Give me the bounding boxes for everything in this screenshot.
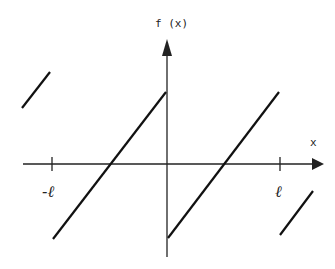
segment-main-left [53, 92, 166, 239]
tick-label-pos-l: ℓ [275, 182, 282, 201]
sawtooth-diagram: f (x) x -ℓ ℓ [0, 0, 335, 269]
x-axis-label: x [310, 136, 317, 149]
segment-left-periodic [22, 72, 50, 108]
y-axis-label: f (x) [155, 17, 188, 30]
y-axis-arrow-icon [162, 39, 172, 56]
tick-label-neg-l: -ℓ [42, 182, 54, 201]
x-axis-arrow-icon [312, 158, 324, 170]
plot-svg: f (x) x -ℓ ℓ [0, 0, 335, 269]
segment-right-periodic [280, 191, 313, 235]
segment-main-right [168, 92, 279, 238]
